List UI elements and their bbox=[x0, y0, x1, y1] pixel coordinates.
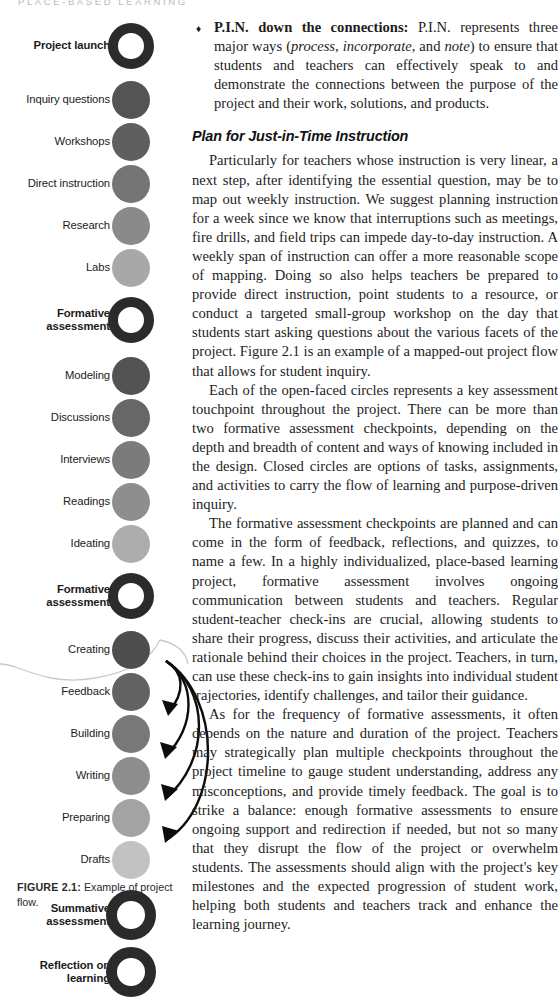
flow-node-label: Formative assessment bbox=[46, 583, 110, 610]
bullet-diamond-icon: ♦ bbox=[196, 19, 201, 38]
figure-caption-label: FIGURE 2.1: bbox=[17, 881, 81, 893]
flow-node-filled-circle bbox=[112, 441, 150, 479]
flow-node-label: Readings bbox=[63, 495, 110, 508]
flow-node-filled-circle bbox=[112, 673, 150, 711]
flow-node-filled-circle bbox=[112, 715, 150, 753]
body-paragraph-3: The formative assessment checkpoints are… bbox=[192, 514, 558, 705]
flow-node-label: Discussions bbox=[51, 411, 110, 424]
bullet-run-in-heading: P.I.N. down the connections: bbox=[214, 19, 408, 35]
body-paragraph-2: Each of the open-faced circles represent… bbox=[192, 381, 558, 515]
bullet-text-c: , and bbox=[412, 38, 445, 54]
body-paragraph-1: Particularly for teachers whose instruct… bbox=[192, 151, 558, 380]
bullet-italic-process: process bbox=[291, 38, 335, 54]
flow-node-label: Workshops bbox=[55, 135, 110, 148]
flow-node-label: Ideating bbox=[71, 537, 110, 550]
figure-caption: FIGURE 2.1: Example of project flow. bbox=[17, 880, 185, 909]
flow-node-open-circle bbox=[108, 573, 154, 619]
flow-node-open-circle bbox=[108, 23, 154, 69]
flow-node-label: Formative assessment bbox=[46, 307, 110, 334]
bullet-italic-note: note bbox=[445, 38, 470, 54]
flow-node-label: Inquiry questions bbox=[26, 93, 110, 106]
bullet-item-pin: ♦P.I.N. down the connections: P.I.N. rep… bbox=[192, 18, 558, 113]
flow-node-label: Writing bbox=[76, 769, 110, 782]
flow-node-filled-circle bbox=[112, 165, 150, 203]
flow-node-list: Project launchInquiry questionsWorkshops… bbox=[0, 0, 190, 880]
flow-node-label: Research bbox=[62, 219, 110, 232]
flow-node-label: Project launch bbox=[34, 39, 110, 52]
flow-node-label: Interviews bbox=[60, 453, 110, 466]
flow-node-label: Reflection on learning bbox=[40, 959, 110, 986]
flow-node-filled-circle bbox=[112, 357, 150, 395]
flow-node-filled-circle bbox=[112, 757, 150, 795]
flow-node-filled-circle bbox=[112, 525, 150, 563]
flow-node-label: Building bbox=[71, 727, 110, 740]
bullet-italic-incorporate: incorporate bbox=[343, 38, 412, 54]
flow-node-label: Preparing bbox=[62, 811, 110, 824]
figure-project-flow: Project launchInquiry questionsWorkshops… bbox=[0, 0, 190, 937]
flow-node-label: Creating bbox=[68, 643, 110, 656]
flow-node-label: Modeling bbox=[65, 369, 110, 382]
flow-node-filled-circle bbox=[112, 841, 150, 879]
flow-node-filled-circle bbox=[112, 399, 150, 437]
flow-node-filled-circle bbox=[112, 631, 150, 669]
flow-node-filled-circle bbox=[112, 123, 150, 161]
flow-node-filled-circle bbox=[112, 249, 150, 287]
flow-node-open-circle bbox=[106, 947, 156, 997]
flow-node-filled-circle bbox=[112, 81, 150, 119]
flow-node-label: Labs bbox=[86, 261, 110, 274]
flow-node-label: Drafts bbox=[80, 853, 110, 866]
flow-node-label: Direct instruction bbox=[28, 177, 110, 190]
flow-node-filled-circle bbox=[112, 207, 150, 245]
flow-node-open-circle bbox=[108, 297, 154, 343]
flow-node-filled-circle bbox=[112, 483, 150, 521]
body-column: ♦P.I.N. down the connections: P.I.N. rep… bbox=[192, 18, 558, 934]
body-paragraph-4: As for the frequency of formative assess… bbox=[192, 705, 558, 934]
flow-node-label: Feedback bbox=[61, 685, 110, 698]
bullet-text-b: , bbox=[335, 38, 343, 54]
flow-node-filled-circle bbox=[112, 799, 150, 837]
section-heading: Plan for Just-in-Time Instruction bbox=[192, 127, 558, 145]
